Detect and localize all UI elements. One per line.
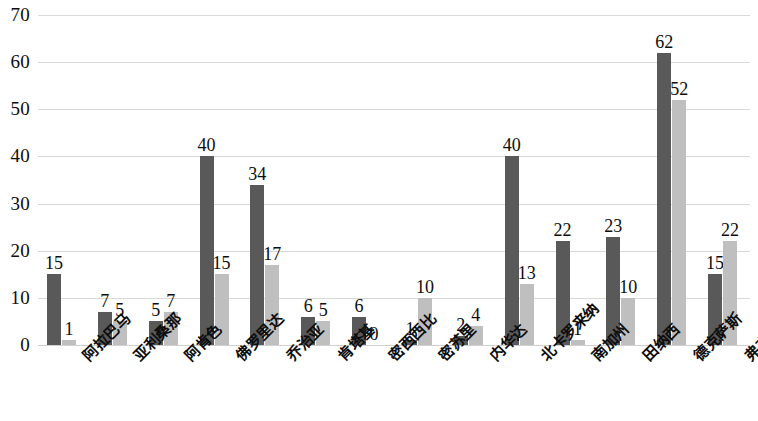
bar-value-label: 4 xyxy=(471,306,480,324)
bar[interactable] xyxy=(62,340,76,345)
x-tick-label: 阿肯色 xyxy=(179,350,194,365)
bar-value-label: 22 xyxy=(554,221,572,239)
y-tick-label: 60 xyxy=(11,51,30,73)
bar-value-label: 7 xyxy=(166,292,175,310)
x-tick-label: 南加州 xyxy=(586,350,601,365)
bar-value-label: 40 xyxy=(503,136,521,154)
bar-value-label: 6 xyxy=(355,297,364,315)
x-tick-label: 内华达 xyxy=(484,350,499,365)
bar[interactable] xyxy=(657,53,671,345)
bar-value-label: 15 xyxy=(45,254,63,272)
bar-value-label: 15 xyxy=(213,254,231,272)
y-tick-label: 40 xyxy=(11,145,30,167)
y-tick-label: 0 xyxy=(20,334,30,356)
bar[interactable] xyxy=(571,340,585,345)
x-tick-label: 阿拉巴马 xyxy=(77,350,92,365)
bar[interactable] xyxy=(47,274,61,345)
bar-value-label: 40 xyxy=(198,136,216,154)
bar-value-label: 6 xyxy=(304,297,313,315)
bar-value-label: 22 xyxy=(721,221,739,239)
x-tick-label: 肯塔基 xyxy=(332,350,347,365)
y-axis: 010203040506070 xyxy=(0,0,36,421)
bars-layer: 1517557401534176560110244013221231062521… xyxy=(38,15,750,345)
bar-value-label: 23 xyxy=(604,217,622,235)
y-tick-label: 50 xyxy=(11,98,30,120)
x-tick-label: 乔治亚 xyxy=(281,350,296,365)
x-tick-label: 德克萨斯 xyxy=(688,350,703,365)
x-tick-label: 北卡罗来纳 xyxy=(535,350,550,365)
x-tick-label: 亚利桑那 xyxy=(128,350,143,365)
x-tick-label: 密西西比 xyxy=(383,350,398,365)
bar-value-label: 15 xyxy=(706,254,724,272)
bar[interactable] xyxy=(672,100,686,345)
x-tick-label: 田纳西 xyxy=(637,350,652,365)
y-tick-label: 70 xyxy=(11,4,30,26)
bar-value-label: 10 xyxy=(619,278,637,296)
bar-value-label: 7 xyxy=(100,292,109,310)
x-tick-label: 佛罗里达 xyxy=(230,350,245,365)
bar-value-label: 62 xyxy=(655,33,673,51)
y-tick-label: 20 xyxy=(11,240,30,262)
y-tick-label: 10 xyxy=(11,287,30,309)
bar-value-label: 1 xyxy=(64,320,73,338)
bar-value-label: 34 xyxy=(248,165,266,183)
bar-value-label: 13 xyxy=(518,264,536,282)
plot-area: 1517557401534176560110244013221231062521… xyxy=(38,15,750,345)
bar-value-label: 5 xyxy=(319,301,328,319)
bar-chart: 010203040506070 151755740153417656011024… xyxy=(0,0,758,421)
x-axis: 阿拉巴马亚利桑那阿肯色佛罗里达乔治亚肯塔基密西西比密苏里内华达北卡罗来纳南加州田… xyxy=(38,346,750,421)
bar-value-label: 52 xyxy=(670,80,688,98)
bar-value-label: 17 xyxy=(263,245,281,263)
bar-value-label: 5 xyxy=(151,301,160,319)
y-tick-label: 30 xyxy=(11,193,30,215)
bar[interactable] xyxy=(200,156,214,345)
x-tick-label: 密苏里 xyxy=(433,350,448,365)
x-tick-label: 弗吉尼亚 xyxy=(739,350,754,365)
bar[interactable] xyxy=(505,156,519,345)
bar-value-label: 10 xyxy=(416,278,434,296)
